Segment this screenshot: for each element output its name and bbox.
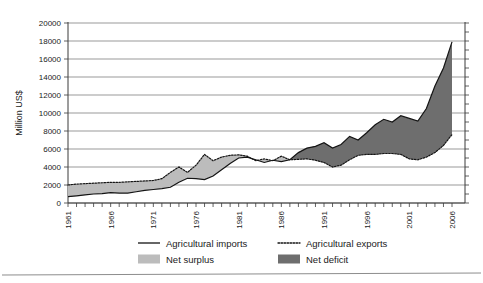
legend-label-agricultural-exports: Agricultural exports — [306, 238, 388, 249]
xtick-label-1961: 1961 — [64, 210, 73, 228]
legend-marker-net-deficit — [278, 255, 300, 264]
ytick-label-16000: 16000 — [39, 55, 62, 64]
legend-label-net-surplus: Net surplus — [166, 254, 214, 265]
net-surplus-area-0 — [68, 154, 251, 196]
legend-label-net-deficit: Net deficit — [306, 254, 349, 265]
xtick-label-1991: 1991 — [320, 210, 329, 228]
legend-marker-net-surplus — [138, 255, 160, 264]
xtick-label-2006: 2006 — [448, 210, 457, 228]
xtick-label-1966: 1966 — [107, 210, 116, 228]
xtick-label-1996: 1996 — [363, 210, 372, 228]
legend-label-agricultural-imports: Agricultural imports — [166, 238, 248, 249]
chart-figure: 0200040006000800010000120001400016000180… — [0, 0, 483, 283]
ytick-label-14000: 14000 — [39, 73, 62, 82]
ytick-label-18000: 18000 — [39, 37, 62, 46]
agricultural-trade-area-chart: 0200040006000800010000120001400016000180… — [0, 0, 483, 283]
bottom-divider — [2, 273, 481, 275]
y-axis-title: Million US$ — [14, 90, 24, 136]
xtick-label-1986: 1986 — [277, 210, 286, 228]
ytick-label-6000: 6000 — [43, 145, 61, 154]
ytick-label-20000: 20000 — [39, 19, 62, 28]
xtick-label-1971: 1971 — [149, 210, 158, 228]
series-line-agricultural-imports — [68, 42, 452, 197]
ytick-label-10000: 10000 — [39, 109, 62, 118]
xtick-label-2001: 2001 — [405, 210, 414, 228]
ytick-label-2000: 2000 — [43, 181, 61, 190]
ytick-label-8000: 8000 — [43, 127, 61, 136]
ytick-label-4000: 4000 — [43, 163, 61, 172]
ytick-label-0: 0 — [57, 199, 62, 208]
ytick-label-12000: 12000 — [39, 91, 62, 100]
xtick-label-1976: 1976 — [192, 210, 201, 228]
xtick-label-1981: 1981 — [235, 210, 244, 228]
